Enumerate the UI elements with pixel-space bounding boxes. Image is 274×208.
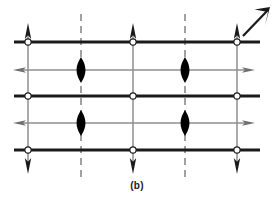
node-circle [130, 39, 136, 45]
node-circle [130, 93, 136, 99]
lens-marker-icon [181, 57, 190, 83]
node-circle [130, 147, 136, 153]
horizontal-bold-lines [14, 42, 260, 150]
lens-marker-icon [181, 110, 190, 136]
node-circle [234, 147, 240, 153]
lens-marker-icon [77, 57, 86, 83]
node-circle [25, 93, 31, 99]
diagonal-arrow-icon [243, 7, 270, 36]
figure-panel-b: (b) [0, 0, 274, 208]
node-circle [234, 93, 240, 99]
lattice-diagram [0, 0, 274, 208]
lens-marker-icon [77, 110, 86, 136]
diagonal-arrow-shaft [243, 11, 267, 36]
node-circle [25, 39, 31, 45]
figure-caption: (b) [0, 180, 274, 191]
node-circle [25, 147, 31, 153]
node-circle [234, 39, 240, 45]
